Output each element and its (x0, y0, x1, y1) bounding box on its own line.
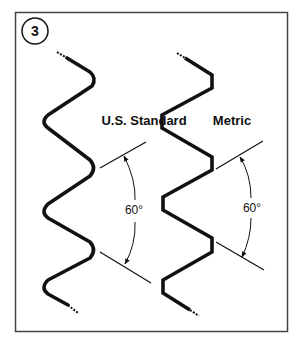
thread-profile-diagram: 3 U.S. Standard 60° Metric (0, 0, 302, 340)
step-number: 3 (31, 23, 39, 39)
us-standard-label: U.S. Standard (101, 113, 186, 128)
step-number-badge: 3 (22, 18, 48, 44)
metric-label: Metric (213, 113, 251, 128)
us-angle-label: 60° (125, 203, 143, 217)
metric-angle-label: 60° (243, 201, 261, 215)
